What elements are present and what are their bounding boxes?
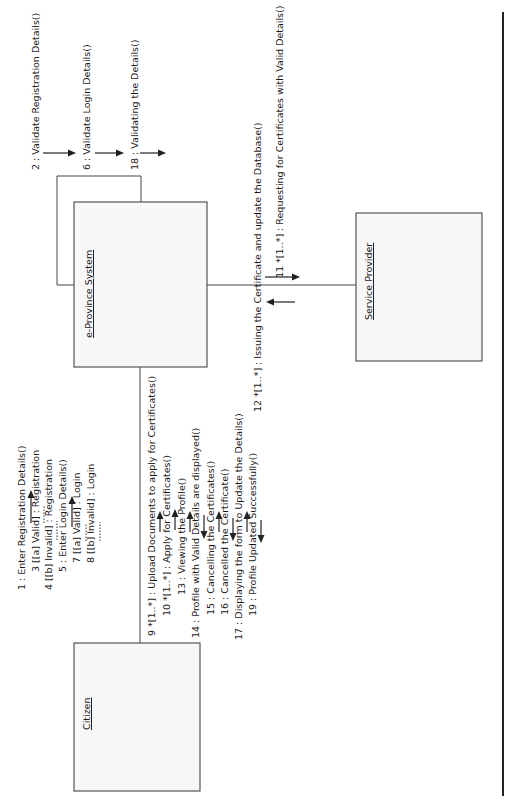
- message-1: 1 : Enter Registration Details(): [16, 446, 27, 590]
- message-7: 7 [[a] Valid] : Login: [71, 473, 82, 564]
- self-messages: 2 : Validate Registration Details() 6 : …: [30, 13, 166, 170]
- object-eprovince-system[interactable]: e-Province System: [74, 202, 207, 367]
- message-6: 6 : Validate Login Details(): [81, 44, 92, 170]
- message-18: 18 : Validating the Details(): [129, 40, 140, 170]
- provider-messages: 11 *[1..*] : Requesting for Certificates…: [252, 6, 300, 412]
- message-11: 11 *[1..*] : Requesting for Certificates…: [274, 6, 285, 278]
- message-17: 17 : Displaying the form to Update the D…: [233, 413, 244, 640]
- message-19: 19 : Profile Updated Successfully(): [247, 453, 258, 616]
- object-service-provider[interactable]: Service Provider: [356, 213, 482, 361]
- citizen-messages-certificates-profile: 9 *[1..*] : Upload Documents to apply fo…: [146, 376, 265, 640]
- message-8: 8 [[b] Invalid] : Login: [85, 464, 96, 563]
- citizen-label: Citizen: [81, 698, 92, 731]
- message-9: 9 *[1..*] : Upload Documents to apply fo…: [146, 376, 157, 636]
- provider-label: Service Provider: [363, 243, 374, 320]
- arrowhead-icon: [292, 274, 300, 281]
- message-14: 14 : Profile with Valid Details are disp…: [190, 428, 201, 638]
- arrowhead-icon: [258, 535, 265, 543]
- arrowhead-icon: [266, 299, 274, 306]
- provider-box: [356, 213, 482, 361]
- message-10: 10 *[1..*] : Apply for Certificates(): [161, 455, 172, 616]
- arrowhead-icon: [158, 150, 166, 157]
- message-2: 2 : Validate Registration Details(): [30, 13, 41, 170]
- message-5: 5 : Enter Login Details(): [57, 459, 68, 572]
- communication-diagram: e-Province System Citizen Service Provid…: [0, 0, 512, 810]
- citizen-messages-registration-login: 1 : Enter Registration Details() 3 [[a] …: [16, 446, 100, 590]
- message-16: 16 : Cancelled the Certificate(): [219, 469, 230, 615]
- citizen-box: [74, 643, 200, 791]
- message-3: 3 [[a] Valid] : Registration: [30, 450, 41, 572]
- object-citizen[interactable]: Citizen: [74, 643, 200, 791]
- message-13: 13 : Viewing the Profile(): [176, 478, 187, 595]
- eprovince-label: e-Province System: [83, 250, 94, 338]
- arrowhead-icon: [68, 150, 76, 157]
- message-12: 12 *[1..*] : Issuing the Certificate and…: [252, 123, 263, 413]
- message-4: 4 [[b] Invalid] : Registration: [43, 459, 54, 590]
- arrowhead-icon: [116, 150, 124, 157]
- message-15: 15 : Cancelling the Certificates(): [205, 461, 216, 615]
